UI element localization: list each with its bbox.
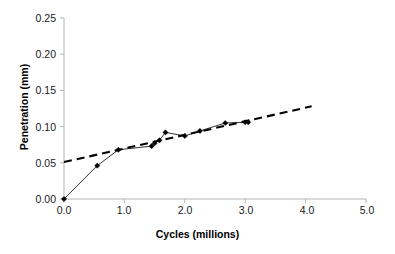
x-axis-title: Cycles (millions) <box>0 228 395 240</box>
chart-container: 0.00 0.05 0.10 0.15 0.20 0.25 0.0 1.0 2.… <box>0 0 395 254</box>
y-tick-label-0: 0.00 <box>22 194 56 205</box>
x-tick-label-1: 1.0 <box>106 205 142 216</box>
x-tick-label-3: 3.0 <box>228 205 264 216</box>
y-tick-label-5: 0.25 <box>22 13 56 24</box>
trend-line <box>64 106 312 162</box>
y-axis-title: Penetration (mm) <box>18 37 30 177</box>
x-tick-label-5: 5.0 <box>349 205 385 216</box>
x-tick-label-0: 0.0 <box>46 205 82 216</box>
x-tick-label-4: 4.0 <box>289 205 325 216</box>
data-point-marker <box>223 120 228 125</box>
data-line <box>64 122 248 199</box>
x-tick-label-2: 2.0 <box>167 205 203 216</box>
data-series-group <box>61 106 311 201</box>
axes-group <box>60 18 366 203</box>
